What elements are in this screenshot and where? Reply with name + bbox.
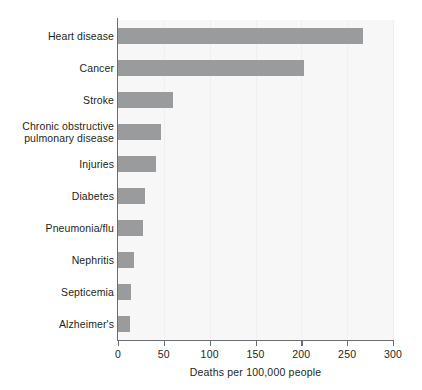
category-label-line: Pneumonia/flu (2, 222, 114, 235)
category-label: Heart disease (2, 30, 114, 43)
x-axis-tick-label: 150 (246, 348, 264, 360)
category-label: Cancer (2, 62, 114, 75)
bar (118, 28, 363, 44)
category-label-line: Septicemia (2, 286, 114, 299)
bar (118, 188, 145, 204)
bar (118, 316, 130, 332)
x-axis-tick (210, 340, 211, 346)
bar-row (118, 52, 393, 84)
x-axis-tick (301, 340, 302, 346)
category-label-line: pulmonary disease (2, 132, 114, 145)
category-label-line: Injuries (2, 158, 114, 171)
category-label: Pneumonia/flu (2, 222, 114, 235)
bar-row (118, 84, 393, 116)
category-label-line: Stroke (2, 94, 114, 107)
bar (118, 220, 143, 236)
y-axis-line (117, 18, 118, 341)
x-axis-tick-label: 300 (384, 348, 402, 360)
category-label: Nephritis (2, 254, 114, 267)
x-axis-tick (118, 340, 119, 346)
category-label-line: Heart disease (2, 30, 114, 43)
category-label: Chronic obstructivepulmonary disease (2, 120, 114, 145)
category-label-line: Diabetes (2, 190, 114, 203)
bar (118, 284, 131, 300)
bar-row (118, 148, 393, 180)
bar-row (118, 276, 393, 308)
category-label: Stroke (2, 94, 114, 107)
bar-row (118, 20, 393, 52)
x-axis-tick (256, 340, 257, 346)
category-label-line: Cancer (2, 62, 114, 75)
bar (118, 92, 173, 108)
x-axis-tick (164, 340, 165, 346)
x-axis-tick (393, 340, 394, 346)
gridline (393, 20, 394, 340)
bar (118, 60, 304, 76)
x-axis-tick-label: 200 (292, 348, 310, 360)
bar-row (118, 212, 393, 244)
bar-row (118, 116, 393, 148)
x-axis-tick (347, 340, 348, 346)
category-axis-labels: Heart diseaseCancerStrokeChronic obstruc… (0, 20, 114, 340)
x-axis-tick-label: 0 (115, 348, 121, 360)
x-axis-tick-label: 50 (158, 348, 170, 360)
bar-row (118, 308, 393, 340)
x-axis-tick-label: 250 (338, 348, 356, 360)
category-label: Alzheimer's (2, 318, 114, 331)
category-label: Injuries (2, 158, 114, 171)
bar (118, 252, 134, 268)
x-axis-tick-label: 100 (201, 348, 219, 360)
category-label-line: Alzheimer's (2, 318, 114, 331)
category-label: Diabetes (2, 190, 114, 203)
category-label: Septicemia (2, 286, 114, 299)
bar-row (118, 180, 393, 212)
bar (118, 124, 161, 140)
x-axis-title: Deaths per 100,000 people (118, 366, 393, 378)
bar-chart: Heart diseaseCancerStrokeChronic obstruc… (0, 0, 422, 390)
bar-row (118, 244, 393, 276)
bar (118, 156, 156, 172)
plot-area (118, 20, 393, 340)
category-label-line: Nephritis (2, 254, 114, 267)
category-label-line: Chronic obstructive (2, 120, 114, 133)
